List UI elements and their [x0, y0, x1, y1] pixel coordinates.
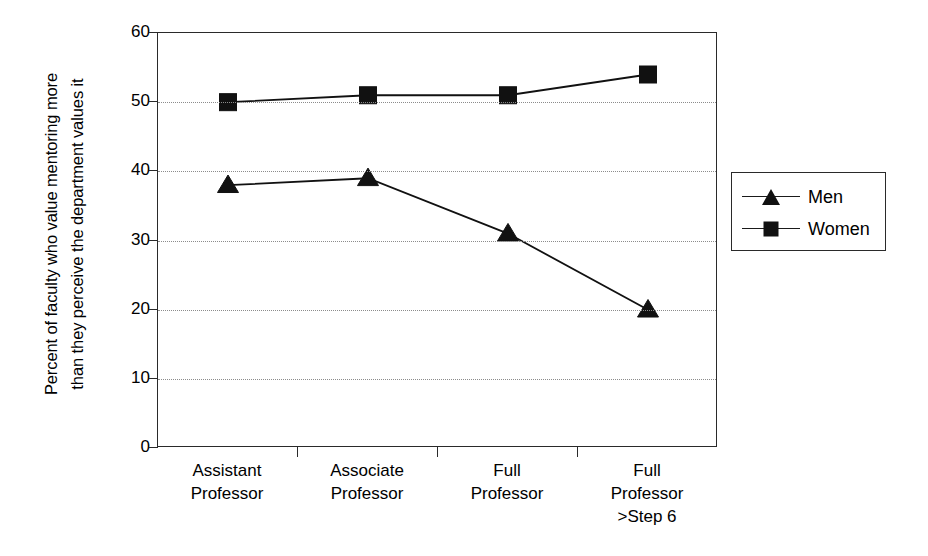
x-axis-category-label: FullProfessor: [437, 459, 577, 549]
data-point-triangle-marker: [498, 223, 519, 241]
y-axis-tick-label: 0: [106, 438, 150, 455]
x-axis-category-label-line: Full: [437, 459, 577, 482]
plot-area: [157, 32, 717, 447]
x-axis-tick-mark: [297, 447, 298, 457]
gridline: [158, 379, 716, 380]
gridline: [158, 310, 716, 311]
x-axis-category-label-line: Professor: [297, 482, 437, 505]
y-axis-tick-mark: [149, 378, 158, 379]
y-axis-tick-mark: [149, 240, 158, 241]
y-axis-title-line-2: than they perceive the department values…: [64, 18, 90, 450]
x-axis-category-label-line: Full: [577, 459, 717, 482]
gridline: [158, 171, 716, 172]
data-point-square-marker: [640, 66, 657, 83]
y-axis-title: Percent of faculty who value mentoring m…: [12, 18, 108, 450]
gridline: [158, 241, 716, 242]
y-axis-tick-mark: [149, 447, 158, 448]
x-axis-tick-mark: [577, 447, 578, 457]
legend-marker-triangle-icon: [740, 182, 802, 212]
y-axis-tick-mark: [149, 309, 158, 310]
y-axis-tick-labels: 0102030405060: [104, 0, 150, 556]
legend-label-men: Men: [802, 188, 843, 206]
y-axis-title-line-1: Percent of faculty who value mentoring m…: [38, 18, 64, 450]
y-axis-tick-mark: [149, 170, 158, 171]
legend-item-men[interactable]: Men: [732, 181, 887, 213]
data-point-triangle-marker: [638, 300, 659, 318]
legend-label-women: Women: [802, 220, 870, 238]
x-axis-category-label: AssociateProfessor: [297, 459, 437, 549]
y-axis-tick-label: 40: [106, 161, 150, 178]
series-line-men: [228, 178, 648, 309]
y-axis-tick-mark: [149, 101, 158, 102]
y-axis-tick-mark: [149, 32, 158, 33]
y-axis-tick-label: 10: [106, 369, 150, 386]
x-axis-tick-mark: [437, 447, 438, 457]
x-axis-category-label-line: Associate: [297, 459, 437, 482]
gridline: [158, 102, 716, 103]
chart-figure: Percent of faculty who value mentoring m…: [0, 0, 928, 556]
y-axis-tick-label: 20: [106, 300, 150, 317]
data-point-triangle-marker: [218, 175, 239, 193]
x-axis-category-label-line: Professor: [157, 482, 297, 505]
x-axis-category-label: FullProfessor>Step 6: [577, 459, 717, 549]
x-axis-category-label-line: Professor: [437, 482, 577, 505]
x-axis-category-label-line: >Step 6: [577, 505, 717, 528]
series-line-women: [228, 75, 648, 103]
x-axis-category-label-line: Assistant: [157, 459, 297, 482]
legend-marker-square-icon: [740, 214, 802, 244]
y-axis-tick-label: 30: [106, 231, 150, 248]
x-axis-category-label: AssistantProfessor: [157, 459, 297, 549]
y-axis-tick-label: 60: [106, 23, 150, 40]
x-axis-category-label-line: Professor: [577, 482, 717, 505]
x-axis-tick-labels: AssistantProfessorAssociateProfessorFull…: [157, 459, 717, 549]
y-axis-tick-label: 50: [106, 92, 150, 109]
legend-item-women[interactable]: Women: [732, 213, 887, 245]
legend: Men Women: [731, 172, 886, 251]
